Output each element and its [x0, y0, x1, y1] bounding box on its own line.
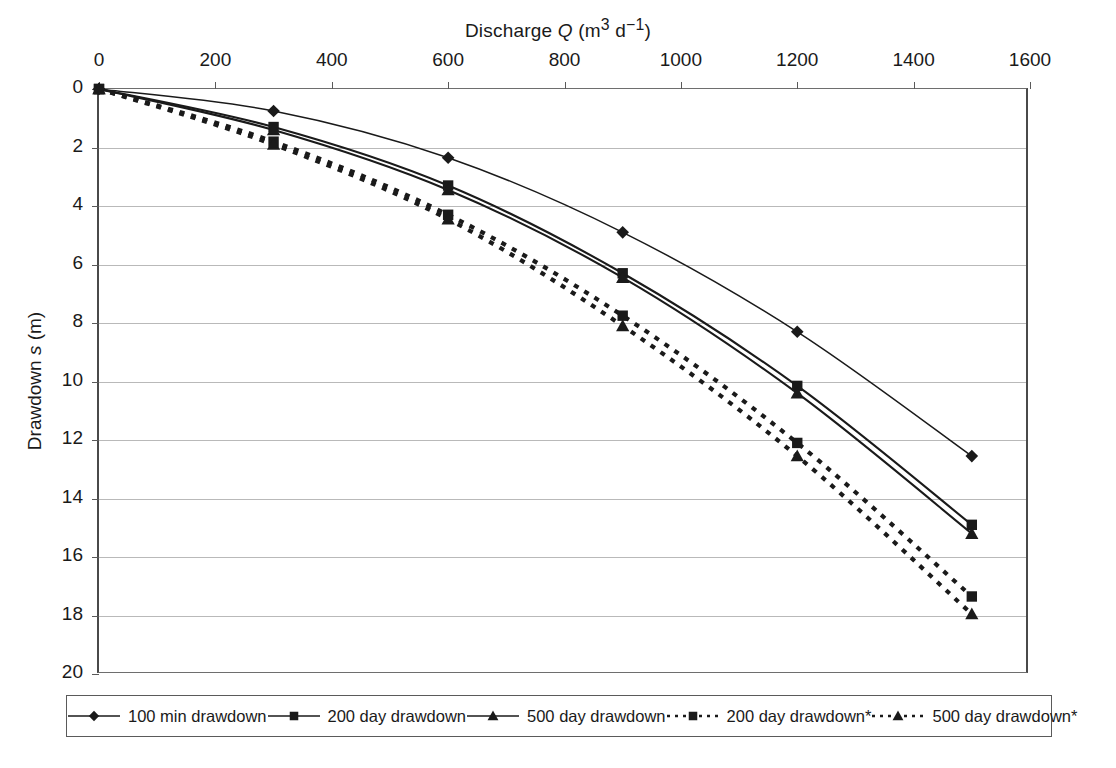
- series-line: [99, 89, 972, 614]
- legend-item[interactable]: 500 day drawdown*: [871, 707, 1077, 726]
- x-tick: [448, 82, 449, 89]
- x-tick-label: 400: [292, 49, 372, 71]
- legend-item[interactable]: 200 day drawdown: [267, 707, 467, 726]
- series-layer: [99, 89, 1030, 674]
- series-2: [94, 84, 977, 530]
- x-axis-title-units-pre: (m: [573, 20, 601, 41]
- chart-legend: 100 min drawdown200 day drawdown500 day …: [66, 695, 1052, 737]
- x-tick: [914, 82, 915, 89]
- data-point: [792, 438, 802, 448]
- data-point: [442, 151, 455, 164]
- x-tick: [565, 82, 566, 89]
- data-point: [616, 226, 629, 239]
- y-tick: [92, 499, 99, 500]
- series-line: [99, 89, 972, 534]
- y-tick-label: 4: [19, 193, 83, 215]
- legend-marker: [289, 712, 298, 721]
- data-point: [966, 450, 979, 463]
- legend-label: 500 day drawdown*: [932, 707, 1077, 726]
- y-tick-label: 10: [19, 369, 83, 391]
- legend-marker: [893, 711, 904, 721]
- data-point: [267, 105, 280, 118]
- y-tick-label: 0: [19, 76, 83, 98]
- x-axis-title-exponent-1: 3: [601, 16, 610, 33]
- x-tick-label: 200: [175, 49, 255, 71]
- x-tick: [1030, 82, 1031, 89]
- x-tick-label: 800: [525, 49, 605, 71]
- x-axis-title-units-post: ): [645, 20, 652, 41]
- y-tick-label: 12: [19, 427, 83, 449]
- legend-label: 200 day drawdown*: [727, 707, 872, 726]
- y-tick-label: 18: [19, 603, 83, 625]
- x-axis-title-exponent-2: −1: [626, 16, 644, 33]
- y-tick: [92, 557, 99, 558]
- x-axis-title-main: Discharge: [465, 20, 558, 41]
- y-tick: [92, 265, 99, 266]
- x-tick-label: 1200: [757, 49, 837, 71]
- chart-page: Discharge Q (m3 d−1) Drawdown s (m) 0200…: [0, 0, 1116, 768]
- x-tick: [681, 82, 682, 89]
- x-tick-label: 600: [408, 49, 488, 71]
- y-tick: [92, 440, 99, 441]
- series-1: [93, 83, 978, 463]
- series-4: [94, 84, 977, 602]
- legend-marker-diamond-icon: [67, 708, 121, 724]
- series-5: [92, 82, 978, 619]
- x-tick: [797, 82, 798, 89]
- legend-label: 500 day drawdown: [527, 707, 666, 726]
- x-tick-label: 1600: [990, 49, 1070, 71]
- x-tick-label: 0: [59, 49, 139, 71]
- legend-label: 200 day drawdown: [328, 707, 467, 726]
- legend-item[interactable]: 200 day drawdown*: [666, 707, 872, 726]
- legend-marker-square-icon: [267, 708, 321, 724]
- y-tick: [92, 674, 99, 675]
- y-tick-label: 14: [19, 486, 83, 508]
- x-tick-label: 1000: [641, 49, 721, 71]
- plot-area: 02004006008001000120014001600 0246810121…: [97, 88, 1028, 673]
- legend-label: 100 min drawdown: [128, 707, 267, 726]
- legend-marker-triangle-icon: [466, 708, 520, 724]
- series-line: [99, 89, 972, 456]
- x-axis-title-variable: Q: [558, 20, 573, 41]
- x-tick: [215, 82, 216, 89]
- x-axis-title-units-mid: d: [610, 20, 626, 41]
- y-tick: [92, 382, 99, 383]
- y-tick-label: 8: [19, 310, 83, 332]
- y-axis-title-variable: s: [24, 346, 45, 356]
- legend-item[interactable]: 100 min drawdown: [67, 707, 267, 726]
- legend-marker-triangle-icon: [871, 708, 925, 724]
- y-tick: [92, 616, 99, 617]
- legend-marker: [688, 712, 697, 721]
- series-3: [92, 82, 978, 538]
- y-tick-label: 6: [19, 252, 83, 274]
- x-tick: [332, 82, 333, 89]
- legend-item[interactable]: 500 day drawdown: [466, 707, 666, 726]
- series-line: [99, 89, 972, 596]
- y-tick-label: 16: [19, 544, 83, 566]
- data-point: [791, 325, 804, 338]
- y-tick-label: 20: [19, 661, 83, 683]
- y-tick: [92, 148, 99, 149]
- data-point: [791, 449, 804, 461]
- x-tick-label: 1400: [874, 49, 954, 71]
- legend-marker: [89, 711, 99, 721]
- y-tick: [92, 323, 99, 324]
- y-tick-label: 2: [19, 135, 83, 157]
- legend-marker-square-icon: [666, 708, 720, 724]
- x-axis-title: Discharge Q (m3 d−1): [0, 16, 1116, 42]
- data-point: [967, 591, 977, 601]
- y-tick: [92, 206, 99, 207]
- series-line: [99, 89, 972, 525]
